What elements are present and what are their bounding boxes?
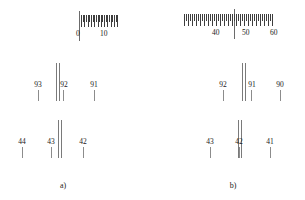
tick-group-a <box>17 15 121 27</box>
scale-tick <box>212 14 213 26</box>
reading-panel-b-bottom-inner: 43 42 41 <box>185 120 288 158</box>
reading-a-bottom-44: 44 <box>18 138 26 146</box>
leader-a-bottom-3 <box>83 147 84 158</box>
reading-panel-b-bottom: 43 42 41 <box>185 120 288 158</box>
scale-tick <box>117 15 118 27</box>
scale-tick <box>214 14 215 21</box>
leader-a-middle-2 <box>63 90 64 101</box>
scale-tick <box>194 14 195 21</box>
reading-a-middle-91: 91 <box>90 81 98 89</box>
leader-a-bottom-2 <box>51 147 52 158</box>
scale-panel-a-inner: 0 10 <box>17 11 121 41</box>
reading-panel-b-middle-inner: 92 91 90 <box>185 63 288 101</box>
scale-tick <box>184 14 185 26</box>
scale-tick <box>240 14 241 26</box>
index-line-b-middle-2 <box>245 63 246 101</box>
scale-tick <box>186 14 187 21</box>
reading-panel-a-bottom-inner: 44 43 42 <box>10 120 115 158</box>
tick-group-b <box>178 14 288 26</box>
scale-label-b-40: 40 <box>212 29 220 37</box>
scale-tick <box>254 14 255 21</box>
scale-tick <box>220 14 221 26</box>
scale-panel-a: 0 10 <box>17 11 121 41</box>
figure-group-b: 40 50 60 92 91 90 <box>153 0 305 200</box>
leader-a-middle-3 <box>94 90 95 101</box>
scale-tick <box>236 14 237 26</box>
index-line-a-bottom-1 <box>58 120 59 158</box>
measurement-scale-figure: 0 10 93 92 91 44 <box>0 0 305 200</box>
reading-b-bottom-42: 42 <box>235 138 243 146</box>
scale-tick <box>204 14 205 26</box>
index-line-a-middle-1 <box>56 63 57 101</box>
scale-tick <box>202 14 203 21</box>
index-line-a-bottom-2 <box>61 120 62 158</box>
scale-tick <box>218 14 219 21</box>
scale-panel-b-inner: 40 50 60 <box>178 9 288 39</box>
scale-tick <box>250 14 251 21</box>
scale-tick <box>260 14 261 26</box>
scale-tick <box>210 14 211 21</box>
scale-tick <box>192 14 193 26</box>
scale-tick <box>246 14 247 21</box>
leader-b-middle-3 <box>280 90 281 101</box>
scale-label-a-0: 0 <box>76 30 80 38</box>
scale-tick <box>266 14 267 21</box>
scale-tick <box>262 14 263 21</box>
reading-panel-a-middle: 93 92 91 <box>10 63 115 101</box>
scale-tick <box>248 14 249 26</box>
scale-tick <box>272 14 273 26</box>
scale-tick <box>190 14 191 21</box>
reading-panel-b-middle: 92 91 90 <box>185 63 288 101</box>
scale-tick <box>258 14 259 21</box>
scale-tick <box>270 14 271 21</box>
scale-tick <box>244 14 245 26</box>
reading-a-middle-93: 93 <box>34 81 42 89</box>
reading-b-bottom-43: 43 <box>206 138 214 146</box>
scale-tick <box>206 14 207 21</box>
leader-b-middle-2 <box>251 90 252 101</box>
scale-tick <box>224 14 225 26</box>
scale-tick <box>198 14 199 21</box>
leader-a-middle-1 <box>38 90 39 101</box>
scale-tick <box>226 14 227 21</box>
scale-label-a-10: 10 <box>100 30 108 38</box>
scale-tick <box>228 14 229 26</box>
scale-tick <box>268 14 269 26</box>
reading-b-middle-92: 92 <box>219 81 227 89</box>
scale-tick <box>196 14 197 26</box>
scale-tick <box>238 14 239 21</box>
scale-tick <box>216 14 217 26</box>
reading-b-bottom-41: 41 <box>266 138 274 146</box>
figure-group-a: 0 10 93 92 91 44 <box>0 0 152 200</box>
scale-tick <box>232 14 233 26</box>
reading-b-middle-91: 91 <box>248 81 256 89</box>
scale-tick <box>208 14 209 26</box>
scale-panel-b: 40 50 60 <box>178 9 288 39</box>
scale-tick <box>242 14 243 21</box>
reading-panel-a-middle-inner: 93 92 91 <box>10 63 115 101</box>
leader-b-bottom-1 <box>210 147 211 158</box>
scale-tick <box>264 14 265 26</box>
caption-b: b) <box>230 182 237 190</box>
leader-a-bottom-1 <box>22 147 23 158</box>
scale-label-b-50: 50 <box>242 29 250 37</box>
leader-b-bottom-3 <box>270 147 271 158</box>
reading-a-bottom-43: 43 <box>47 138 55 146</box>
scale-tick <box>256 14 257 26</box>
index-line-b-middle-1 <box>242 63 243 101</box>
scale-tick <box>222 14 223 21</box>
scale-tick <box>252 14 253 26</box>
leader-b-bottom-2 <box>239 147 240 158</box>
reading-a-bottom-42: 42 <box>79 138 87 146</box>
scale-tick <box>230 14 231 21</box>
leader-b-middle-1 <box>223 90 224 101</box>
reading-a-middle-92: 92 <box>60 81 68 89</box>
scale-tick <box>200 14 201 26</box>
scale-tick <box>234 14 235 21</box>
scale-label-b-60: 60 <box>270 29 278 37</box>
reading-b-middle-90: 90 <box>276 81 284 89</box>
caption-a: a) <box>60 182 66 190</box>
reading-panel-a-bottom: 44 43 42 <box>10 120 115 158</box>
scale-tick <box>188 14 189 26</box>
